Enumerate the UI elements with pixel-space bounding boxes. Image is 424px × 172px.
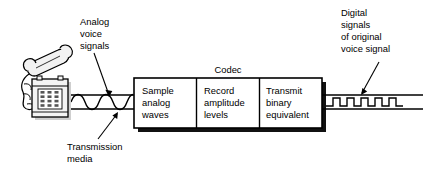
analog-leader-line [94, 53, 112, 97]
codec-title: Codec [214, 64, 241, 75]
label-line: Digital [341, 7, 367, 18]
telephone-base [32, 76, 71, 120]
label-line: signals [341, 19, 370, 30]
analog-voice-signals-label: Analog voice signals [80, 16, 109, 51]
cell-line: equivalent [266, 109, 309, 120]
cell-line: analog [142, 97, 170, 108]
digital-leader-line [361, 62, 379, 95]
digital-signals-label: Digital signals of original voice signal [341, 7, 390, 54]
cell-line: Sample [142, 85, 174, 96]
transmission-leader-line [98, 112, 118, 139]
label-line: media [67, 153, 93, 164]
codec-diagram: Codec Sample analog waves Record amplitu… [0, 0, 424, 172]
label-line: Analog [80, 16, 109, 27]
label-line: signals [80, 40, 109, 51]
label-line: of original [341, 31, 382, 42]
diagram-canvas: Codec Sample analog waves Record amplitu… [0, 0, 424, 172]
transmission-media-right [322, 95, 423, 109]
transmission-media-label: Transmission media [67, 141, 122, 164]
analog-sine-wave [71, 95, 133, 110]
digital-square-wave [326, 98, 403, 106]
cell-line: levels [204, 109, 228, 120]
desk-telephone [22, 45, 73, 120]
cell-line: binary [266, 97, 292, 108]
cell-line: amplitude [204, 97, 245, 108]
telephone-handset [23, 45, 72, 76]
cell-line: Transmit [266, 85, 303, 96]
label-line: Transmission [67, 141, 122, 152]
cell-line: waves [141, 109, 169, 120]
label-line: voice signal [341, 43, 390, 54]
label-line: voice [80, 28, 102, 39]
cell-line: Record [204, 85, 234, 96]
